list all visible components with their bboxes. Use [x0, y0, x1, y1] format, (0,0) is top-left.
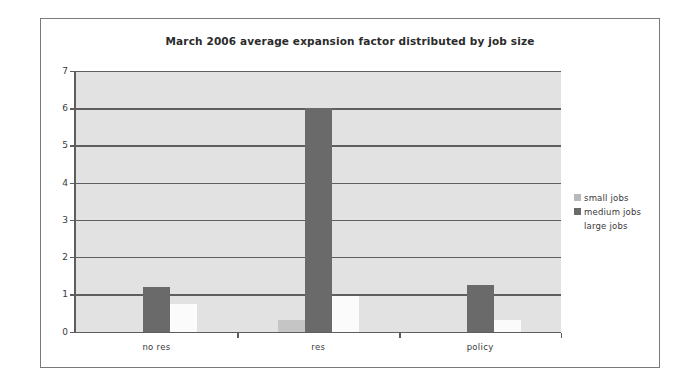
y-tick-mark — [70, 294, 75, 295]
y-tick-label: 7 — [62, 66, 68, 76]
legend-item: small jobs — [574, 191, 652, 204]
y-tick-mark — [70, 108, 75, 109]
plot-area: 01234567 no resrespolicy — [74, 71, 561, 333]
bar — [467, 285, 494, 332]
legend-item-label: medium jobs — [584, 207, 641, 217]
x-tick-mark — [399, 333, 400, 338]
chart-frame: March 2006 average expansion factor dist… — [40, 18, 660, 368]
bar — [170, 304, 197, 332]
y-tick-mark — [70, 145, 75, 146]
x-tick-label: no res — [142, 342, 170, 352]
chart-legend: small jobsmedium jobslarge jobs — [574, 191, 652, 233]
y-tick-mark — [70, 220, 75, 221]
bar-group — [440, 71, 521, 332]
chart-title: March 2006 average expansion factor dist… — [41, 35, 659, 47]
legend-item-label: small jobs — [584, 193, 629, 203]
x-tick-label: policy — [467, 342, 494, 352]
bar — [278, 320, 305, 331]
x-tick-mark — [237, 333, 238, 338]
bar — [494, 320, 521, 331]
y-tick-label: 0 — [62, 327, 68, 337]
y-tick-label: 6 — [62, 103, 68, 113]
y-tick-mark — [70, 257, 75, 258]
legend-swatch-icon — [574, 194, 581, 201]
y-tick-label: 3 — [62, 215, 68, 225]
y-tick-mark — [70, 183, 75, 184]
y-tick-mark — [70, 71, 75, 72]
legend-item-label: large jobs — [584, 221, 628, 231]
bar — [332, 296, 359, 331]
legend-item: large jobs — [574, 219, 652, 232]
x-tick-label: res — [311, 342, 325, 352]
y-tick-label: 5 — [62, 140, 68, 150]
bar — [305, 108, 332, 331]
x-axis-line — [74, 332, 561, 334]
y-tick-mark — [70, 332, 75, 333]
legend-item: medium jobs — [574, 205, 652, 218]
bar-group — [278, 71, 359, 332]
y-tick-label: 1 — [62, 289, 68, 299]
bar-group — [116, 71, 197, 332]
x-tick-mark — [561, 333, 562, 338]
legend-swatch-icon — [574, 208, 581, 215]
y-tick-label: 2 — [62, 252, 68, 262]
legend-swatch-icon — [574, 222, 581, 229]
y-tick-label: 4 — [62, 178, 68, 188]
bar — [143, 287, 170, 332]
